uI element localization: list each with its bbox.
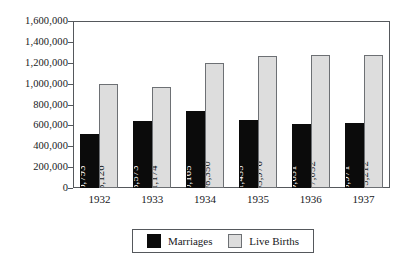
chart-legend: MarriagesLive Births bbox=[132, 229, 314, 253]
y-tick-label: 200,000 bbox=[33, 162, 68, 172]
bar-live-births: 1,277,052 bbox=[311, 55, 330, 188]
bar-value-label: 638,573 bbox=[133, 165, 143, 188]
bars-layer: 516,793993,126638,573971,174740,1651,198… bbox=[73, 21, 390, 188]
bar-value-label: 740,165 bbox=[186, 165, 196, 188]
bar-value-label: 1,263,976 bbox=[258, 161, 268, 188]
x-tick-label: 1936 bbox=[300, 193, 322, 206]
bar-value-label: 609,631 bbox=[292, 165, 302, 188]
bar-live-births: 1,263,976 bbox=[258, 56, 277, 188]
y-tick-label: 1,200,000 bbox=[25, 58, 68, 68]
x-tick-label: 1935 bbox=[247, 193, 269, 206]
bar-value-label: 1,198,350 bbox=[205, 161, 215, 188]
bar-marriages: 651,435 bbox=[239, 120, 258, 188]
bar-value-label: 971,174 bbox=[152, 165, 162, 188]
bar-value-label: 618,971 bbox=[345, 165, 355, 188]
legend-swatch-births bbox=[228, 234, 242, 248]
bar-value-label: 651,435 bbox=[239, 165, 249, 188]
legend-entry: Marriages bbox=[147, 234, 213, 248]
bar-value-label: 1,277,052 bbox=[311, 161, 321, 188]
bar-value-label: 1,275,212 bbox=[364, 161, 374, 188]
legend-label: Live Births bbox=[249, 235, 299, 247]
bar-group: 638,573971,174 bbox=[126, 21, 179, 188]
bar-marriages: 516,793 bbox=[80, 134, 99, 188]
x-tick-label: 1934 bbox=[194, 193, 216, 206]
y-tick-label: 800,000 bbox=[33, 100, 68, 110]
bar-value-label: 993,126 bbox=[99, 165, 109, 188]
bar-chart: 0200,000400,000600,000800,0001,000,0001,… bbox=[0, 0, 404, 260]
bar-value-label: 516,793 bbox=[80, 165, 90, 188]
bar-marriages: 638,573 bbox=[133, 121, 152, 188]
legend-entry: Live Births bbox=[228, 234, 299, 248]
y-tick-mark bbox=[68, 188, 73, 189]
bar-group: 740,1651,198,350 bbox=[179, 21, 232, 188]
bar-marriages: 618,971 bbox=[345, 123, 364, 188]
bar-group: 651,4351,263,976 bbox=[232, 21, 285, 188]
y-tick-label: 600,000 bbox=[33, 120, 68, 130]
bar-live-births: 1,275,212 bbox=[364, 55, 383, 188]
y-tick-label: 1,400,000 bbox=[25, 37, 68, 47]
bar-marriages: 609,631 bbox=[292, 124, 311, 188]
bar-live-births: 971,174 bbox=[152, 87, 171, 188]
bar-group: 516,793993,126 bbox=[73, 21, 126, 188]
x-tick-label: 1932 bbox=[88, 193, 110, 206]
x-tick-label: 1937 bbox=[353, 193, 375, 206]
bar-group: 609,6311,277,052 bbox=[284, 21, 337, 188]
legend-swatch-marriages bbox=[147, 234, 161, 248]
y-tick-label: 1,000,000 bbox=[25, 79, 68, 89]
bar-live-births: 1,198,350 bbox=[205, 63, 224, 188]
bar-live-births: 993,126 bbox=[99, 84, 118, 188]
y-tick-label: 1,600,000 bbox=[25, 16, 68, 26]
legend-label: Marriages bbox=[168, 235, 213, 247]
bar-group: 618,9711,275,212 bbox=[337, 21, 390, 188]
x-tick-label: 1933 bbox=[141, 193, 163, 206]
bar-marriages: 740,165 bbox=[186, 111, 205, 188]
y-tick-label: 400,000 bbox=[33, 141, 68, 151]
